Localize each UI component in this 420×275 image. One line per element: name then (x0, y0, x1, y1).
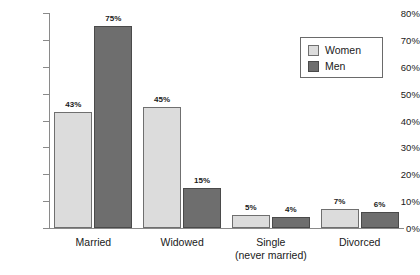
bar-value-label: 5% (245, 203, 257, 212)
chart-legend: Women Men (300, 37, 383, 78)
legend-item-men[interactable]: Men (308, 60, 345, 72)
bar-group: 43%75% (54, 13, 132, 228)
bar-chart: 0%10%20%30%40%50%60%70%80% 43%75%45%15%5… (0, 0, 420, 275)
bar-value-label: 7% (334, 197, 346, 206)
category-label-line1: Widowed (161, 236, 204, 248)
bar-value-label: 45% (154, 95, 170, 104)
bar-value-label: 6% (374, 200, 386, 209)
bar-value-label: 75% (105, 14, 121, 23)
x-axis-category-label: Divorced (339, 236, 380, 248)
y-axis-tick-mark (43, 228, 50, 229)
bar-value-label: 4% (285, 205, 297, 214)
category-label-line1: Married (76, 236, 112, 248)
legend-swatch-women-icon (308, 45, 319, 56)
legend-label-women: Women (325, 44, 361, 56)
bar-value-label: 15% (194, 176, 210, 185)
x-axis-line (49, 228, 404, 229)
x-axis-category-label: Married (76, 236, 112, 248)
bar-men[interactable] (361, 212, 399, 228)
category-label-line1: Single (256, 236, 285, 248)
bar-men[interactable] (272, 217, 310, 228)
bar-women[interactable] (143, 107, 181, 228)
x-axis-category-label: Single(never married) (235, 236, 307, 261)
bar-women[interactable] (54, 112, 92, 228)
x-axis-category-label: Widowed (161, 236, 204, 248)
category-label-line2: (never married) (235, 249, 307, 261)
legend-item-women[interactable]: Women (308, 44, 361, 56)
bar-women[interactable] (321, 209, 359, 228)
legend-label-men: Men (325, 60, 345, 72)
bar-group: 5%4% (232, 13, 310, 228)
bar-women[interactable] (232, 215, 270, 228)
legend-swatch-men-icon (308, 61, 319, 72)
category-label-line1: Divorced (339, 236, 380, 248)
bar-men[interactable] (183, 188, 221, 228)
bar-men[interactable] (94, 26, 132, 228)
bar-value-label: 43% (65, 100, 81, 109)
bar-group: 45%15% (143, 13, 221, 228)
